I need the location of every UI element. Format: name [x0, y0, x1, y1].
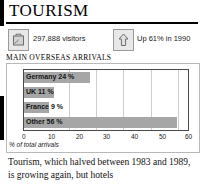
up-arrow-icon — [113, 29, 134, 51]
bar-row-uk: UK 11 % — [24, 87, 188, 98]
page-title: TOURISM — [9, 1, 89, 20]
xtick-10: 10 — [48, 133, 55, 140]
title-divider — [6, 22, 198, 24]
xtick-40: 40 — [131, 133, 138, 140]
stats-row: 297,888 visitors Up 61% in 1990 — [8, 29, 196, 51]
bar-label-other: Other 56 % — [26, 118, 63, 125]
infographic-panel: TOURISM 297,888 visitors Up 61% in 1990 … — [0, 0, 201, 194]
stat-growth-text: Up 61% in 1990 — [137, 34, 190, 43]
xtick-20: 20 — [76, 133, 83, 140]
xtick-50: 50 — [159, 133, 166, 140]
bar-row-france: France 9 % — [24, 102, 188, 113]
bar-row-other: Other 56 % — [24, 117, 188, 128]
left-edge-bar-mid — [0, 96, 4, 140]
left-edge-bar-top — [0, 0, 4, 26]
bar-label-germany: Germany 24 % — [26, 73, 74, 80]
bar-label-uk: UK 11 % — [26, 88, 54, 95]
chart-section-heading: MAIN OVERSEAS ARRIVALS — [6, 53, 111, 62]
bar-chart: Germany 24 % UK 11 % France 9 % Other 56… — [6, 63, 200, 153]
xtick-0: 0 — [22, 133, 26, 140]
article-body: Tourism, which halved between 1983 and 1… — [8, 156, 198, 181]
xtick-60: 60 — [185, 133, 192, 140]
x-axis-label: % of total arrivals — [9, 141, 59, 148]
bar-row-germany: Germany 24 % — [24, 72, 188, 83]
suitcase-icon — [8, 29, 29, 51]
xtick-30: 30 — [103, 133, 110, 140]
stat-visitors-text: 297,888 visitors — [33, 34, 86, 43]
chart-plot-area: Germany 24 % UK 11 % France 9 % Other 56… — [23, 69, 189, 131]
bar-label-france: France 9 % — [26, 103, 63, 110]
